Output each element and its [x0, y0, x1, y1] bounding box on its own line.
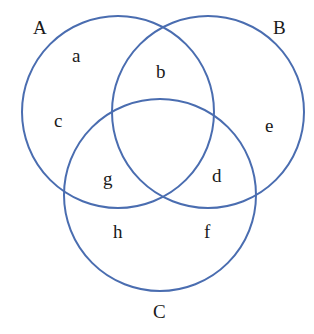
region-a: a: [72, 45, 81, 66]
region-b: b: [156, 61, 166, 82]
region-e: e: [265, 115, 273, 136]
set-label-c: C: [153, 301, 166, 322]
region-c: c: [54, 110, 62, 131]
venn-diagram: A B C a b c e g d h f: [0, 0, 314, 334]
region-g: g: [103, 168, 113, 189]
region-h: h: [113, 221, 123, 242]
region-d: d: [212, 165, 222, 186]
circle-a: [22, 16, 214, 208]
region-f: f: [204, 221, 211, 242]
set-label-a: A: [33, 17, 47, 38]
set-label-b: B: [273, 17, 286, 38]
